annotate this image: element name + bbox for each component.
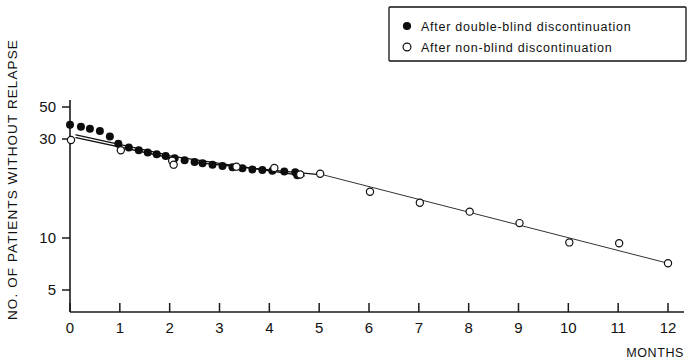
- data-point-open-10: [466, 208, 473, 215]
- data-point-open-11: [516, 220, 523, 227]
- data-point-filled-20: [258, 166, 266, 174]
- data-point-open-3: [170, 161, 177, 168]
- data-point-open-0: [67, 136, 74, 143]
- x-ticklabel-8: 8: [464, 319, 472, 336]
- x-ticklabel-4: 4: [265, 319, 273, 336]
- data-point-open-4: [233, 163, 240, 170]
- x-ticklabel-0: 0: [66, 319, 74, 336]
- data-point-filled-0: [66, 121, 74, 129]
- data-point-filled-4: [106, 132, 114, 140]
- series-double-blind-points: [66, 121, 301, 179]
- y-ticklabel-50: 50: [39, 98, 56, 115]
- x-axis-ticks: 0123456789101112: [66, 303, 677, 336]
- survival-chart-svg: After double-blind discontinuation After…: [0, 0, 694, 364]
- y-axis-ticks: 50 30 10 5: [39, 98, 70, 298]
- x-ticklabel-2: 2: [165, 319, 173, 336]
- x-ticklabel-11: 11: [610, 319, 626, 336]
- chart-figure: After double-blind discontinuation After…: [0, 0, 694, 364]
- data-point-open-7: [317, 170, 324, 177]
- y-ticklabel-30: 30: [39, 130, 56, 147]
- data-point-filled-7: [135, 146, 143, 154]
- legend-label-non-blind: After non-blind discontinuation: [421, 41, 612, 55]
- data-point-open-1: [117, 147, 124, 154]
- data-point-filled-6: [125, 144, 133, 152]
- x-ticklabel-1: 1: [116, 319, 124, 336]
- y-ticklabel-5: 5: [48, 281, 56, 298]
- data-point-filled-14: [199, 159, 207, 167]
- y-axis-title: NO. OF PATIENTS WITHOUT RELAPSE: [5, 39, 20, 320]
- data-point-open-5: [271, 164, 278, 171]
- legend-label-double-blind: After double-blind discontinuation: [421, 20, 631, 34]
- data-point-filled-3: [96, 127, 104, 135]
- y-ticklabel-10: 10: [39, 229, 56, 246]
- x-ticklabel-12: 12: [660, 319, 677, 336]
- x-ticklabel-5: 5: [315, 319, 323, 336]
- x-ticklabel-9: 9: [514, 319, 522, 336]
- data-point-filled-1: [77, 123, 85, 131]
- fit-line-non-blind-long-fit: [322, 174, 668, 263]
- data-point-filled-9: [153, 150, 161, 158]
- data-point-filled-8: [144, 149, 152, 157]
- data-point-filled-12: [181, 156, 189, 164]
- x-ticklabel-10: 10: [560, 319, 577, 336]
- data-point-filled-19: [248, 165, 256, 173]
- chart-legend: After double-blind discontinuation After…: [389, 7, 686, 61]
- x-ticklabel-6: 6: [365, 319, 373, 336]
- legend-marker-open-circle: [403, 43, 411, 51]
- data-point-open-12: [566, 239, 573, 246]
- data-point-open-14: [664, 260, 671, 267]
- data-point-filled-10: [162, 152, 170, 160]
- data-point-filled-22: [280, 168, 288, 176]
- data-point-open-8: [366, 188, 373, 195]
- x-ticklabel-3: 3: [215, 319, 223, 336]
- x-axis-title: MONTHS: [626, 346, 684, 360]
- data-point-filled-16: [218, 162, 226, 170]
- data-point-open-6: [297, 171, 304, 178]
- data-point-filled-15: [209, 161, 217, 169]
- x-ticklabel-7: 7: [415, 319, 423, 336]
- data-point-filled-2: [86, 125, 94, 133]
- legend-marker-filled-circle: [403, 22, 411, 30]
- data-point-filled-13: [191, 158, 199, 166]
- data-point-open-13: [616, 240, 623, 247]
- data-point-open-9: [416, 199, 423, 206]
